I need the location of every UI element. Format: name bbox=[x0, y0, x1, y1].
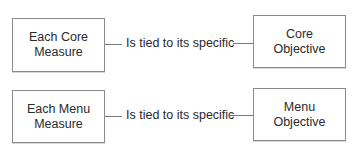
core-connector-right-line bbox=[233, 43, 253, 44]
menu-connector-right-line bbox=[230, 115, 253, 116]
core-connector-label: Is tied to its specific bbox=[126, 36, 234, 51]
core-objective-line1: Core bbox=[286, 27, 313, 42]
menu-measure-line2: Measure bbox=[34, 117, 83, 132]
menu-measure-line1: Each Menu bbox=[27, 102, 90, 117]
core-connector-left-line bbox=[105, 44, 122, 45]
core-measure-box: Each Core Measure bbox=[12, 18, 105, 72]
menu-objective-line1: Menu bbox=[284, 100, 315, 115]
core-objective-box: Core Objective bbox=[253, 15, 346, 68]
menu-measure-box: Each Menu Measure bbox=[12, 90, 105, 143]
core-measure-line2: Measure bbox=[34, 45, 83, 60]
menu-objective-line2: Objective bbox=[273, 115, 325, 130]
core-measure-line1: Each Core bbox=[29, 30, 88, 45]
menu-connector-label: Is tied to its specific bbox=[126, 108, 234, 123]
menu-connector-left-line bbox=[105, 116, 122, 117]
core-objective-line2: Objective bbox=[273, 42, 325, 57]
menu-objective-box: Menu Objective bbox=[253, 88, 346, 141]
